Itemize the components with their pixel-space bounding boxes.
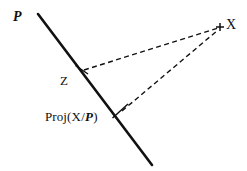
projection-denominator: P — [85, 109, 93, 124]
label-point-z: Z — [60, 74, 68, 87]
label-subspace-p: P — [13, 10, 22, 24]
projection-suffix: ) — [93, 109, 97, 124]
label-projection-point: Proj(X/P) — [45, 110, 98, 123]
point-marker-x — [216, 23, 224, 31]
point-marker-proj — [113, 104, 129, 118]
dashed-line-z-to-x — [84, 28, 218, 70]
dashed-line-proj-to-x — [122, 30, 218, 111]
projection-diagram: P X Z Proj(X/P) — [0, 0, 247, 171]
label-point-x: X — [226, 18, 236, 32]
subspace-line-p — [38, 14, 152, 165]
diagram-canvas — [0, 0, 247, 171]
projection-numerator: X — [72, 109, 82, 124]
projection-prefix: Proj( — [45, 109, 72, 124]
